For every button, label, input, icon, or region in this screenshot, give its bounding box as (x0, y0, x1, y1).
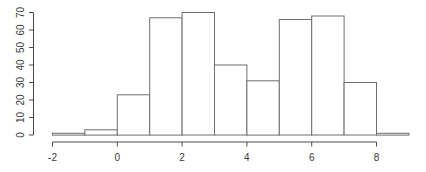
x-tick-label: 6 (309, 152, 315, 163)
y-tick-label: 20 (15, 94, 26, 106)
histogram-plot: 010203040506070-202468 (0, 0, 426, 172)
x-tick-label: 4 (244, 152, 250, 163)
y-tick-label: 60 (15, 24, 26, 36)
histogram-bar (279, 20, 311, 136)
histogram-bar (53, 133, 85, 135)
y-tick-label: 70 (15, 7, 26, 19)
histogram-bar (150, 18, 182, 135)
x-tick-label: -2 (48, 152, 57, 163)
y-tick-label: 0 (15, 132, 26, 138)
y-tick-label: 10 (15, 112, 26, 124)
histogram-bar (117, 95, 149, 135)
y-tick-label: 50 (15, 42, 26, 54)
y-tick-label: 30 (15, 77, 26, 89)
histogram-bar (312, 16, 344, 135)
histogram-bar (377, 133, 409, 135)
histogram-bar (215, 65, 247, 135)
x-tick-label: 8 (374, 152, 380, 163)
histogram-bar (85, 130, 117, 135)
histogram-bar (182, 13, 214, 136)
histogram-bar (247, 81, 279, 135)
histogram-screenshot: 010203040506070-202468 (0, 0, 426, 172)
x-tick-label: 0 (115, 152, 121, 163)
y-tick-label: 40 (15, 59, 26, 71)
x-tick-label: 2 (179, 152, 185, 163)
histogram-bar (344, 83, 376, 136)
